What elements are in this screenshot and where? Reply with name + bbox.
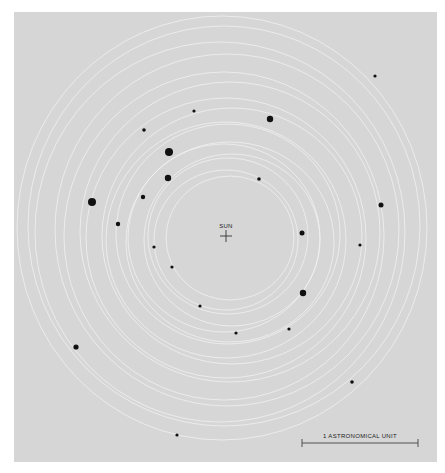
asteroid-dot — [141, 195, 145, 199]
asteroid-dot — [379, 203, 384, 208]
asteroid-dot — [73, 344, 78, 349]
asteroid-dot — [198, 304, 201, 307]
asteroid-dot — [175, 433, 178, 436]
orbit-ellipse — [80, 82, 380, 382]
asteroid-dot — [165, 148, 173, 156]
orbit-diagram — [0, 0, 445, 473]
asteroid-dot — [152, 245, 155, 248]
asteroid-dot — [350, 380, 354, 384]
asteroid-dot — [142, 128, 146, 132]
orbit-ellipse — [166, 176, 294, 300]
orbit-ellipse — [116, 124, 340, 344]
asteroid-dot — [88, 198, 96, 206]
asteroid-dot — [300, 290, 306, 296]
asteroid-dot — [234, 331, 237, 334]
orbit-ellipse — [126, 142, 334, 342]
orbit-ellipse — [35, 42, 405, 422]
sun-cross-icon — [220, 230, 232, 242]
sun-label: SUN — [219, 223, 232, 229]
asteroid-dot — [116, 222, 120, 226]
asteroid-dot — [287, 327, 290, 330]
asteroid-dot — [170, 265, 173, 268]
asteroid-dot — [165, 175, 171, 181]
scale-bar-label: 1 ASTRONOMICAL UNIT — [323, 433, 397, 439]
asteroid-dot — [267, 116, 273, 122]
scale-bar — [302, 439, 418, 447]
asteroid-dot — [257, 177, 261, 181]
asteroid-dot — [300, 231, 305, 236]
asteroid-dot — [373, 74, 376, 77]
asteroid-dot — [192, 109, 195, 112]
asteroid-dot — [358, 243, 361, 246]
